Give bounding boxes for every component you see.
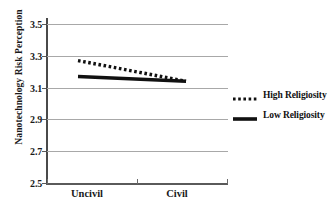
plot-area — [47, 24, 228, 183]
x-tick-label-civil: Civil — [147, 188, 207, 199]
legend-label-high-religiosity: High Religiosity — [263, 90, 327, 100]
legend-dotted-line-icon — [232, 90, 258, 100]
chart-figure: Nanotechnology Risk Perception 3.5 3.3 3… — [0, 0, 332, 215]
series-container — [47, 24, 228, 183]
y-tick-label-3-1: 3.1 — [4, 83, 42, 94]
y-tick-label-group: 3.5 3.3 3.1 2.9 2.7 2.5 — [0, 0, 42, 215]
y-tick-label-3-5: 3.5 — [4, 19, 42, 30]
x-tick-label-uncivil: Uncivil — [57, 188, 117, 199]
series-line-low-religiosity — [78, 76, 186, 81]
legend-solid-line-icon — [232, 110, 258, 120]
legend: High Religiosity Low Religiosity — [232, 86, 332, 126]
legend-item-high-religiosity: High Religiosity — [232, 86, 332, 103]
y-tick-label-3-3: 3.3 — [4, 51, 42, 62]
y-tick-label-2-5: 2.5 — [4, 178, 42, 189]
y-tick-label-2-9: 2.9 — [4, 114, 42, 125]
legend-item-low-religiosity: Low Religiosity — [232, 106, 332, 123]
legend-label-low-religiosity: Low Religiosity — [263, 110, 325, 120]
y-tick-label-2-7: 2.7 — [4, 146, 42, 157]
